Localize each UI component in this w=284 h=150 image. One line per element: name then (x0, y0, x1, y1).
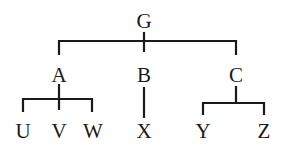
node-u: U (15, 119, 30, 143)
node-y: Y (195, 119, 210, 143)
tree-diagram: G A B C U V W X Y Z (0, 0, 284, 150)
node-w: W (83, 119, 103, 143)
node-b: B (137, 63, 151, 87)
node-v: V (51, 119, 66, 143)
node-g: G (136, 9, 151, 33)
node-x: X (136, 119, 151, 143)
node-a: A (51, 63, 67, 87)
node-c: C (229, 63, 243, 87)
node-z: Z (258, 119, 271, 143)
